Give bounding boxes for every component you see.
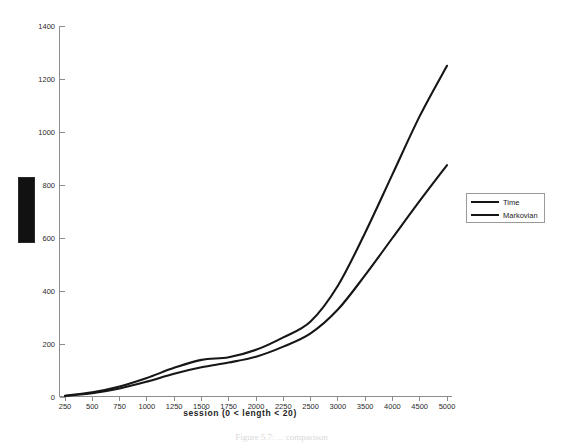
series-line-time xyxy=(65,66,447,396)
legend-swatch-time xyxy=(471,201,499,203)
legend-label-time: Time xyxy=(503,198,519,207)
y-tick-label: 600 xyxy=(42,234,55,243)
line-chart-plot: 0200400600800100012001400 25050075010001… xyxy=(0,0,563,448)
y-tick-label: 400 xyxy=(42,287,55,296)
data-series-group xyxy=(65,66,447,396)
y-axis: 0200400600800100012001400 xyxy=(38,22,64,402)
legend-item-markovian: Markovian xyxy=(471,209,538,221)
y-tick-label: 1000 xyxy=(38,128,55,137)
y-tick-label: 1400 xyxy=(38,22,55,31)
y-tick-label: 1200 xyxy=(38,75,55,84)
series-line-markovian xyxy=(65,165,447,396)
figure-caption: Figure 5.7: ... comparison xyxy=(0,432,563,446)
y-tick-label: 0 xyxy=(51,393,55,402)
chart-figure: 0200400600800100012001400 25050075010001… xyxy=(0,0,563,448)
y-tick-label: 800 xyxy=(42,181,55,190)
y-tick-label: 200 xyxy=(42,340,55,349)
x-axis-title: session (0 < length < 20) xyxy=(0,408,480,418)
legend-swatch-markovian xyxy=(471,214,499,216)
legend-label-markovian: Markovian xyxy=(503,211,538,220)
legend-item-time: Time xyxy=(471,196,519,208)
chart-legend: Time Markovian xyxy=(466,193,545,223)
